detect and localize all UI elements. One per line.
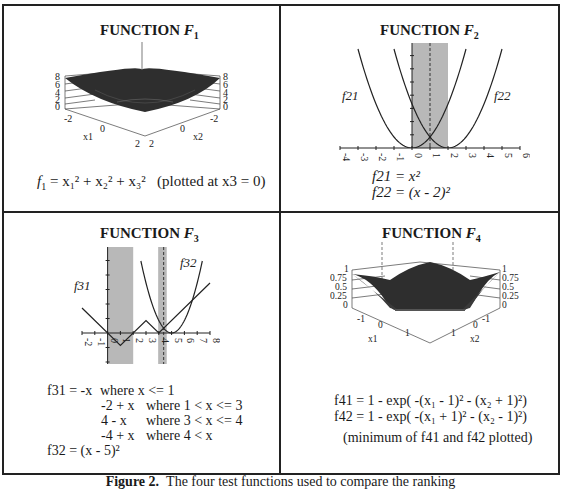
panel-title: FUNCTION F1 [100, 22, 199, 41]
z-tick: 0 [343, 300, 348, 310]
x2-tick: 2 [149, 138, 154, 149]
curve-label: f21 [342, 88, 359, 103]
x-tick-label: 5 [503, 153, 514, 158]
surface-plot-f1: 8 6 4 2 0 8 6 4 2 0 -2 0 2 x1 -2 0 2 x2 [55, 40, 235, 160]
curve-label: f31 [74, 278, 91, 293]
curve-label: f32 [180, 255, 197, 270]
x-tick-label: -4 [341, 153, 352, 161]
equation-line: f31 = -xwhere x <= 1 [47, 383, 242, 398]
eq-lhs: 4 - x [101, 413, 146, 428]
equation-line: f32 = (x - 5)² [47, 443, 242, 458]
panel-divider-vertical [279, 4, 281, 473]
eq-rhs: = x₁² + x₂² + x₃² [50, 173, 146, 189]
curve-label: f22 [494, 88, 511, 103]
equation-line: f22 = (x - 2)² [372, 184, 450, 200]
equation-line: f41 = 1 - exp( -(x₁ - 1)² - (x₂ + 1)²) [334, 393, 527, 409]
equation-line: 4 - xwhere 3 < x <= 4 [47, 413, 242, 428]
line-chart-f2: -4-3-2-10123456f21f22 [330, 38, 530, 168]
x2-tick: 0 [180, 123, 185, 134]
z-tick: 0 [502, 300, 507, 310]
series-line-f31 [82, 283, 210, 346]
x-tick-label: -2 [83, 338, 94, 346]
x2-tick: 1 [451, 328, 456, 338]
equations-f4: f41 = 1 - exp( -(x₁ - 1)² - (x₂ + 1)²) f… [334, 393, 527, 425]
x2-label: x2 [470, 334, 480, 344]
eq-cond: where 3 < x <= 4 [146, 413, 242, 428]
x1-tick: -2 [64, 113, 72, 124]
title-text: FUNCTION [380, 22, 464, 38]
z-tick: 0 [223, 101, 228, 112]
title-var: F [184, 22, 194, 38]
x-tick-label: 3 [147, 338, 158, 343]
x1-tick: 0 [100, 123, 105, 134]
x2-tick: -1 [482, 314, 490, 324]
x-tick-label: -1 [395, 153, 406, 161]
x-tick-label: -1 [96, 338, 107, 346]
x2-tick: 0 [473, 320, 478, 330]
equation-line: -4 + xwhere 4 < x [47, 428, 242, 443]
x-tick-label: 1 [431, 153, 442, 158]
x-tick-label: 8 [211, 338, 220, 343]
x-tick-label: 6 [185, 338, 196, 343]
x-tick-label: 4 [160, 338, 171, 343]
equation-line: f42 = 1 - exp( -(x₁ + 1)² - (x₂ - 1)²) [334, 409, 527, 425]
x-tick-label: 2 [449, 153, 460, 158]
x-tick-label: -3 [359, 153, 370, 161]
x-tick-label: 5 [173, 338, 184, 343]
eq-cond: where x <= 1 [100, 383, 175, 398]
x2-tick: -2 [210, 113, 218, 124]
series-line-f32 [141, 261, 202, 333]
title-text: FUNCTION [100, 22, 184, 38]
x1-tick: 0 [378, 320, 383, 330]
x-tick-label: 7 [198, 338, 209, 343]
x-tick-label: 3 [467, 153, 478, 158]
caption-text: The four test functions used to compare … [166, 474, 455, 489]
x1-tick: 1 [405, 328, 410, 338]
eq-lhs: -4 + x [101, 428, 146, 443]
eq-lhs: f31 = -x [47, 383, 100, 398]
title-var: F [466, 225, 476, 241]
x-tick-label: -2 [377, 153, 388, 161]
x1-label: x1 [83, 131, 93, 142]
x-tick-label: 4 [485, 153, 496, 158]
panel-divider-horizontal [2, 211, 558, 213]
eq-cond: where 4 < x [146, 428, 213, 443]
title-text: FUNCTION [100, 225, 184, 241]
eq-note: (plotted at x3 = 0) [157, 173, 265, 189]
x-tick-label: 6 [521, 153, 530, 158]
surface-plot-f4: 1 0.75 0.5 0.25 0 1 0.75 0.5 0.25 0 -1 0… [330, 240, 530, 350]
eq-cond: where 1 < x <= 3 [146, 398, 242, 413]
equation-line: -2 + xwhere 1 < x <= 3 [47, 398, 242, 413]
equations-f2: f21 = x² f22 = (x - 2)² [372, 168, 450, 200]
figure-caption: Figure 2. The four test functions used t… [0, 474, 561, 490]
shaded-region [158, 247, 167, 364]
caption-label: Figure 2. [106, 474, 159, 489]
note-f4: (minimum of f41 and f42 plotted) [343, 430, 532, 446]
equation-f1: f1 = x₁² + x₂² + x₃² (plotted at x3 = 0) [37, 173, 265, 192]
eq-lhs: f32 = (x - 5)² [47, 443, 120, 458]
surface-mesh [65, 68, 220, 112]
x1-tick: -1 [357, 314, 365, 324]
line-chart-f3: -2-1012345678f31f32 [70, 242, 220, 372]
eq-lhs: -2 + x [101, 398, 146, 413]
title-text: FUNCTION [382, 225, 466, 241]
shaded-region [108, 247, 134, 364]
x1-tick: 2 [135, 138, 140, 149]
surface-mesh [352, 262, 500, 310]
z-tick: 0 [55, 101, 60, 112]
title-var: F [464, 22, 474, 38]
x1-label: x1 [368, 334, 378, 344]
eq-lhs-sub: 1 [41, 181, 46, 192]
title-var: F [184, 225, 194, 241]
equation-line: f21 = x² [372, 168, 450, 184]
x-tick-label: 2 [134, 338, 145, 343]
x-tick-label: 0 [413, 153, 424, 158]
equations-f3: f31 = -xwhere x <= 1 -2 + xwhere 1 < x <… [47, 383, 242, 458]
x2-label: x2 [193, 131, 203, 142]
